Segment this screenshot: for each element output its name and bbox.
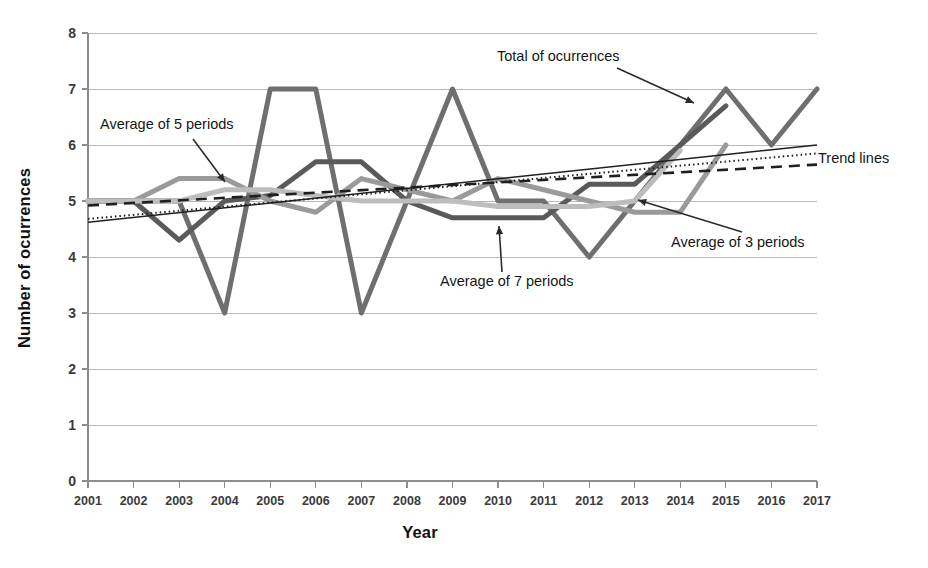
- line-chart: 012345678 200120022003200420052006200720…: [0, 0, 928, 568]
- annotation-labels: Total of ocurrencesAverage of 5 periodsA…: [100, 48, 889, 289]
- x-tick-label-2015: 2015: [712, 494, 740, 508]
- x-axis-title: Year: [402, 523, 438, 541]
- y-tick-label-0: 0: [68, 473, 76, 489]
- y-tick-label-4: 4: [68, 249, 76, 265]
- annotation-arrowhead-avg3: [638, 199, 647, 206]
- y-tick-label-1: 1: [68, 417, 76, 433]
- y-tick-label-5: 5: [68, 193, 76, 209]
- trend-lines-group: [88, 145, 817, 222]
- x-tick-label-2012: 2012: [575, 494, 603, 508]
- x-tick-label-2008: 2008: [393, 494, 421, 508]
- y-tick-label-2: 2: [68, 361, 76, 377]
- x-tick-label-2007: 2007: [347, 494, 375, 508]
- annotation-arrowhead-avg7: [496, 226, 503, 234]
- x-tick-label-2016: 2016: [758, 494, 786, 508]
- x-tick-label-2006: 2006: [302, 494, 330, 508]
- x-tick-label-2005: 2005: [256, 494, 284, 508]
- y-tick-label-6: 6: [68, 137, 76, 153]
- x-tick-label-2009: 2009: [439, 494, 467, 508]
- x-tick-label-2010: 2010: [484, 494, 512, 508]
- x-tick-label-2002: 2002: [120, 494, 148, 508]
- annotation-leader-total: [617, 68, 694, 103]
- y-tick-label-7: 7: [68, 81, 76, 97]
- y-tick-label-8: 8: [68, 25, 76, 41]
- y-tick-labels: 012345678: [68, 25, 76, 489]
- x-tick-label-2014: 2014: [666, 494, 694, 508]
- annotation-label-trend: Trend lines: [818, 150, 889, 166]
- trendline-trend_solid: [88, 145, 817, 222]
- y-tick-label-3: 3: [68, 305, 76, 321]
- annotation-label-avg3: Average of 3 periods: [671, 234, 805, 250]
- x-tick-label-2017: 2017: [803, 494, 831, 508]
- x-tick-labels: 2001200220032004200520062007200820092010…: [74, 494, 831, 508]
- x-tick-label-2011: 2011: [530, 494, 557, 508]
- annotation-leader-avg3: [638, 200, 742, 232]
- annotation-label-total: Total of ocurrences: [497, 48, 620, 64]
- gridlines: [88, 33, 817, 481]
- y-axis-title: Number of ocurrences: [15, 168, 33, 348]
- x-axis: [88, 481, 817, 488]
- x-tick-label-2003: 2003: [165, 494, 193, 508]
- chart-container: 012345678 200120022003200420052006200720…: [0, 0, 928, 568]
- annotation-label-avg7: Average of 7 periods: [440, 273, 574, 289]
- x-tick-label-2013: 2013: [621, 494, 649, 508]
- annotation-label-avg5: Average of 5 periods: [100, 116, 234, 132]
- x-tick-label-2001: 2001: [74, 494, 102, 508]
- x-tick-label-2004: 2004: [211, 494, 239, 508]
- y-axis: [82, 33, 88, 481]
